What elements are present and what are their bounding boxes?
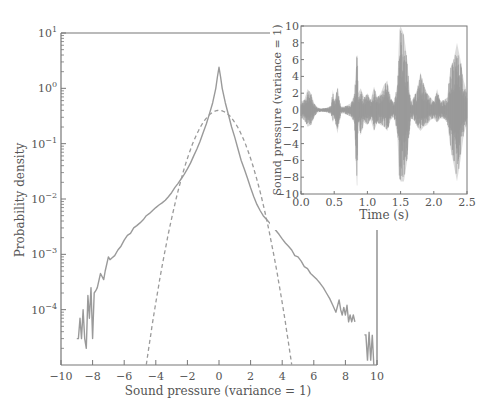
main-x-tick-label: −6 [116, 370, 132, 383]
main-x-tick-label: 4 [279, 370, 286, 383]
chart-svg: −10−8−6−4−2024681010110010−110−210−310−4… [0, 0, 489, 419]
inset-y-tick-label: 8 [292, 37, 299, 50]
inset-x-tick-label: 0.5 [325, 196, 343, 209]
inset-y-tick-label: −4 [283, 138, 299, 151]
main-x-tick-label: −8 [84, 370, 100, 383]
inset-y-tick-label: 6 [292, 54, 299, 67]
inset-y-tick-label: −6 [283, 154, 299, 167]
main-x-tick-label: 2 [247, 370, 254, 383]
main-x-tick-label: −10 [49, 370, 72, 383]
main-y-tick-label: 10−2 [31, 191, 57, 206]
main-x-tick-label: 6 [310, 370, 317, 383]
main-y-axis-label: Probability density [13, 142, 27, 257]
inset-y-tick-label: −8 [283, 171, 299, 184]
main-y-tick-label: 10−4 [31, 302, 57, 317]
main-x-tick-label: 10 [370, 370, 384, 383]
main-x-axis-label: Sound pressure (variance = 1) [125, 384, 312, 398]
main-y-tick-label: 10−3 [31, 246, 57, 261]
inset-y-axis-label: Sound pressure (variance = 1) [271, 25, 284, 196]
main-y-tick-label: 101 [38, 25, 57, 40]
inset-x-tick-label: 2.0 [425, 196, 443, 209]
inset-y-tick-label: −2 [283, 121, 299, 134]
inset-x-tick-label: 2.5 [458, 196, 476, 209]
main-x-tick-label: −2 [179, 370, 195, 383]
gaussian-dashed-curve [146, 110, 291, 364]
inset-y-tick-label: 4 [292, 70, 299, 83]
main-y-tick-label: 100 [38, 80, 57, 95]
inset-y-tick-label: 0 [292, 104, 299, 117]
inset-x-axis-label: Time (s) [359, 208, 409, 222]
main-y-tick-label: 10−1 [31, 136, 57, 151]
main-x-tick-label: 0 [216, 370, 223, 383]
inset-y-tick-label: 10 [285, 20, 299, 33]
main-x-tick-label: −4 [148, 370, 164, 383]
inset-y-tick-label: 2 [292, 87, 299, 100]
figure: −10−8−6−4−2024681010110010−110−210−310−4… [0, 0, 489, 419]
main-x-tick-label: 8 [342, 370, 349, 383]
